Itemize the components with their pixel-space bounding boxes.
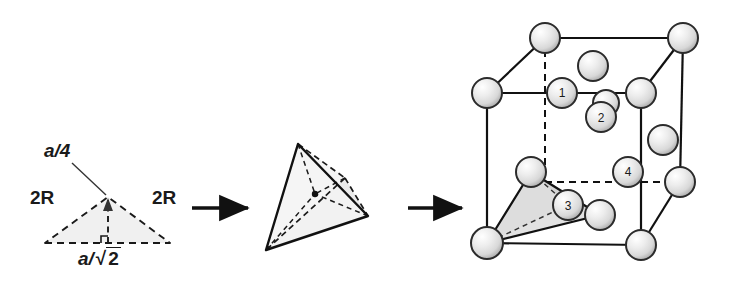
unit-cell-panel bbox=[471, 23, 698, 260]
sphere-face-right bbox=[648, 125, 678, 155]
radicand: 2 bbox=[106, 247, 121, 269]
tetrahedron-center-dot bbox=[312, 191, 318, 197]
crystallography-figure: a/4 2R 2R a/√2 1 2 3 4 bbox=[0, 0, 735, 287]
sphere-3 bbox=[553, 190, 583, 220]
sphere-corner-front-bottom-left bbox=[471, 227, 503, 259]
sphere-4 bbox=[613, 157, 643, 187]
sphere-corner-back-top-right bbox=[668, 23, 698, 53]
cube-edge-back-right-vertical bbox=[680, 38, 683, 182]
cube-edge-front-bottom bbox=[487, 243, 641, 245]
sphere-corner-front-top-left bbox=[472, 78, 502, 108]
figure-svg bbox=[0, 0, 735, 287]
label-2r-left-text: 2R bbox=[30, 187, 54, 208]
tetrahedron-panel bbox=[266, 144, 368, 250]
label-a-over-4-text: a/4 bbox=[44, 140, 70, 161]
sphere-face-top bbox=[578, 51, 608, 81]
sphere-corner-back-bottom-right bbox=[665, 167, 695, 197]
sphere-corner-back-top-left bbox=[530, 23, 560, 53]
sphere-2 bbox=[586, 102, 616, 132]
label-2r-right: 2R bbox=[152, 187, 176, 209]
sphere-face-bottom-interior bbox=[585, 200, 615, 230]
sphere-face-left-interior bbox=[516, 157, 546, 187]
sphere-corner-front-bottom-right bbox=[626, 230, 656, 260]
sphere-corner-front-top-right bbox=[626, 78, 656, 108]
a4-leader-line bbox=[72, 163, 106, 195]
label-base-prefix: a/ bbox=[78, 248, 94, 269]
sphere-1 bbox=[547, 78, 577, 108]
label-2r-left: 2R bbox=[30, 187, 54, 209]
radical-sign: √2 bbox=[94, 248, 121, 270]
label-a-over-root-2: a/√2 bbox=[78, 248, 121, 270]
label-2r-right-text: 2R bbox=[152, 187, 176, 208]
label-a-over-4: a/4 bbox=[44, 140, 70, 162]
